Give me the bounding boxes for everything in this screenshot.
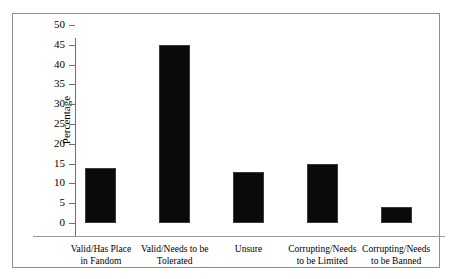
bar: [381, 207, 412, 223]
x-axis-label-line: Unsure: [207, 244, 291, 256]
x-axis-label-line: Valid/Has Place: [59, 244, 143, 256]
y-axis-tick: [69, 84, 75, 85]
x-axis-label-line: to be Banned: [354, 256, 438, 268]
y-axis-tick: [69, 223, 75, 224]
y-axis-tick: [69, 183, 75, 184]
y-axis-line: [75, 38, 76, 237]
y-axis-tick: [69, 45, 75, 46]
x-axis-label: Valid/Needs to beTolerated: [133, 244, 217, 267]
y-axis-tick-label: 25: [39, 118, 65, 129]
y-axis-tick: [69, 65, 75, 66]
bar: [307, 164, 338, 223]
y-axis-tick: [69, 25, 75, 26]
y-axis-tick-label: 15: [39, 158, 65, 169]
y-axis-tick: [69, 144, 75, 145]
x-axis-label-line: Corrupting/Needs: [280, 244, 364, 256]
x-axis-label: Unsure: [207, 244, 291, 256]
y-axis-tick-label: 0: [39, 217, 65, 228]
y-axis-tick-label: 35: [39, 78, 65, 89]
x-axis-label: Corrupting/Needsto be Limited: [280, 244, 364, 267]
y-axis-tick: [69, 164, 75, 165]
x-axis-label-line: Corrupting/Needs: [354, 244, 438, 256]
chart-figure: Percentage 05101520253035404550 Valid/Ha…: [0, 0, 452, 279]
bar: [233, 172, 264, 223]
y-axis-tick-label: 10: [39, 177, 65, 188]
y-axis-tick: [69, 124, 75, 125]
x-axis-label-line: in Fandom: [59, 256, 143, 268]
y-axis-tick-label: 40: [39, 59, 65, 70]
x-axis-label-line: to be Limited: [280, 256, 364, 268]
x-axis-label: Valid/Has Placein Fandom: [59, 244, 143, 267]
y-axis-tick-label: 5: [39, 197, 65, 208]
chart-frame: Percentage 05101520253035404550 Valid/Ha…: [12, 13, 440, 268]
y-axis-tick-label: 50: [39, 19, 65, 30]
x-axis-label: Corrupting/Needsto be Banned: [354, 244, 438, 267]
y-axis-tick: [69, 104, 75, 105]
x-axis-line: [33, 236, 445, 237]
x-axis-label-line: Tolerated: [133, 256, 217, 268]
x-axis-label-line: Valid/Needs to be: [133, 244, 217, 256]
bar: [85, 168, 116, 223]
y-axis-tick: [69, 203, 75, 204]
bar: [159, 45, 190, 223]
y-axis-tick-label: 30: [39, 98, 65, 109]
y-axis-tick-label: 45: [39, 39, 65, 50]
y-axis-tick-label: 20: [39, 138, 65, 149]
